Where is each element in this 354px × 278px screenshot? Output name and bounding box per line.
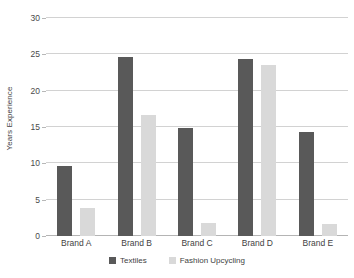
y-axis-tick-mark [42,236,46,237]
x-axis-category-label: Brand A [46,238,106,248]
y-axis-tick-mark [42,200,46,201]
x-axis-category-label: Brand D [227,238,287,248]
y-axis-tick-label: 30 [0,13,40,23]
bar-fashion-upcycling[interactable] [322,224,337,236]
y-axis-tick-mark [42,127,46,128]
y-axis-tick-label: 25 [0,49,40,59]
bar-chart: Years Experience 051015202530 Brand ABra… [0,0,354,278]
bar-group [288,18,348,236]
bar-group [46,18,106,236]
bar-group [227,18,287,236]
x-axis-category-label: Brand E [288,238,348,248]
y-axis-tick-label: 20 [0,86,40,96]
bar-textiles[interactable] [178,128,193,236]
legend-item[interactable]: Fashion Upcycling [169,256,245,265]
y-axis-tick-mark [42,54,46,55]
x-axis-category-label: Brand B [106,238,166,248]
x-axis-category-label: Brand C [167,238,227,248]
bar-fashion-upcycling[interactable] [261,65,276,236]
legend-swatch-icon [169,257,176,264]
bar-textiles[interactable] [238,59,253,236]
bar-group [106,18,166,236]
y-axis-tick-label: 15 [0,122,40,132]
bar-textiles[interactable] [299,132,314,236]
plot-area [46,18,348,236]
legend-swatch-icon [109,257,116,264]
legend-label: Fashion Upcycling [180,256,245,265]
y-axis-tick-label: 5 [0,195,40,205]
y-axis-tick-mark [42,91,46,92]
bar-fashion-upcycling[interactable] [201,223,216,236]
y-axis-tick-label: 0 [0,231,40,241]
bar-fashion-upcycling[interactable] [80,208,95,236]
bar-textiles[interactable] [118,57,133,236]
chart-legend: TextilesFashion Upcycling [0,256,354,265]
bar-group [167,18,227,236]
bar-groups [46,18,348,236]
y-axis-tick-label: 10 [0,158,40,168]
x-axis-category-labels: Brand ABrand BBrand CBrand DBrand E [46,238,348,248]
legend-item[interactable]: Textiles [109,256,147,265]
bar-textiles[interactable] [57,166,72,236]
y-axis-tick-mark [42,18,46,19]
legend-label: Textiles [120,256,147,265]
bar-fashion-upcycling[interactable] [141,115,156,236]
y-axis-tick-mark [42,163,46,164]
